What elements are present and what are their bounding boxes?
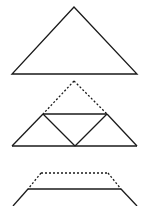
dashed-left-edge (43, 81, 74, 114)
inner-right-fold (75, 114, 107, 146)
stage-1-full-triangle (12, 7, 137, 74)
dashed-right-edge (74, 81, 107, 114)
dashed-left-side (28, 173, 41, 189)
inner-left-fold (43, 114, 75, 146)
folding-diagram (0, 0, 152, 206)
right-edge (121, 189, 137, 206)
stage-3-trapezoid (13, 173, 137, 206)
right-edge (107, 114, 137, 146)
dashed-right-side (108, 173, 121, 189)
stage-2-folded-triangle (12, 81, 137, 146)
left-edge (12, 114, 43, 146)
triangle-outline (12, 7, 137, 74)
left-edge (13, 189, 28, 206)
